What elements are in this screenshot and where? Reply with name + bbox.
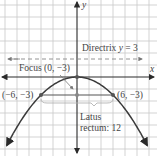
latus-rectum-label-line1: Latus bbox=[80, 112, 101, 122]
x-axis-label: x bbox=[149, 64, 155, 74]
parabola-arrow-left bbox=[7, 133, 14, 145]
latus-rectum-label-line2: rectum: 12 bbox=[80, 123, 121, 133]
parabola-diagram: x y Directrix y = 3 Focus (0, −3) (−6, −… bbox=[0, 0, 157, 156]
focus-point bbox=[75, 93, 79, 97]
left-point-label: (−6, −3) bbox=[2, 90, 33, 101]
y-axis-label: y bbox=[81, 0, 87, 10]
right-point-label: (6, −3) bbox=[117, 90, 143, 101]
vertex-point bbox=[75, 75, 79, 79]
focus-label: Focus (0, −3) bbox=[19, 63, 70, 74]
latus-left-point bbox=[39, 93, 43, 97]
directrix-label: Directrix y = 3 bbox=[82, 43, 138, 53]
parabola-arrow-right bbox=[141, 133, 148, 145]
latus-right-point bbox=[111, 93, 115, 97]
